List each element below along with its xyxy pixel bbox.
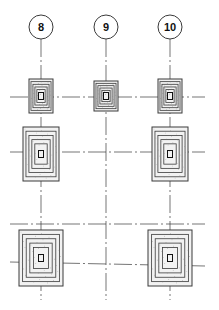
concrete-stipple [36, 88, 37, 89]
concrete-stipple [25, 247, 26, 248]
concrete-stipple [40, 174, 41, 175]
concrete-stipple [49, 169, 50, 170]
concrete-stipple [42, 136, 43, 137]
concrete-stipple [52, 131, 53, 132]
concrete-stipple [48, 261, 49, 262]
concrete-stipple [53, 280, 54, 281]
concrete-stipple [180, 274, 181, 275]
concrete-stipple [152, 269, 153, 270]
concrete-stipple [173, 142, 174, 143]
concrete-stipple [98, 94, 99, 95]
concrete-stipple [47, 134, 48, 135]
concrete-stipple [184, 173, 185, 174]
concrete-stipple [178, 237, 179, 238]
concrete-stipple [52, 155, 53, 156]
concrete-stipple [185, 265, 186, 266]
concrete-stipple [97, 87, 98, 88]
concrete-stipple [159, 156, 160, 157]
concrete-stipple [28, 144, 29, 145]
concrete-stipple [48, 82, 49, 83]
concrete-stipple [189, 256, 190, 257]
concrete-stipple [177, 100, 178, 101]
concrete-stipple [26, 253, 27, 254]
concrete-stipple [179, 268, 180, 269]
concrete-stipple [108, 105, 109, 106]
concrete-stipple [23, 241, 24, 242]
concrete-stipple [96, 98, 97, 99]
concrete-stipple [166, 139, 167, 140]
concrete-stipple [56, 265, 57, 266]
grid-bubble-label: 8 [38, 21, 44, 33]
concrete-stipple [48, 100, 49, 101]
concrete-stipple [37, 139, 38, 140]
concrete-stipple [165, 88, 166, 89]
concrete-stipple [25, 275, 26, 276]
concrete-stipple [161, 102, 162, 103]
concrete-stipple [160, 98, 161, 99]
concrete-stipple [109, 97, 110, 98]
concrete-stipple [160, 245, 161, 246]
footing-8-row-1 [29, 79, 53, 113]
concrete-stipple [178, 169, 179, 170]
concrete-stipple [115, 92, 116, 93]
concrete-stipple [43, 239, 44, 240]
concrete-stipple [96, 83, 97, 84]
concrete-stipple [50, 107, 51, 108]
concrete-stipple [25, 129, 26, 130]
concrete-stipple [180, 175, 181, 176]
concrete-stipple [44, 270, 45, 271]
concrete-stipple [151, 262, 152, 263]
concrete-stipple [154, 129, 155, 130]
concrete-stipple [113, 99, 114, 100]
concrete-stipple [39, 104, 40, 105]
concrete-stipple [35, 100, 36, 101]
concrete-stipple [44, 98, 45, 99]
concrete-stipple [32, 251, 33, 252]
concrete-stipple [104, 88, 105, 89]
concrete-stipple [162, 106, 163, 107]
concrete-stipple [60, 256, 61, 257]
concrete-stipple [176, 157, 177, 158]
concrete-stipple [160, 81, 161, 82]
concrete-stipple [154, 247, 155, 248]
concrete-stipple [114, 102, 115, 103]
concrete-stipple [38, 248, 39, 249]
concrete-stipple [167, 83, 168, 84]
concrete-stipple [44, 172, 45, 173]
concrete-stipple [172, 166, 173, 167]
footing-8-row-2 [23, 127, 59, 181]
concrete-stipple [177, 261, 178, 262]
concrete-stipple [48, 140, 49, 141]
concrete-stipple [168, 104, 169, 105]
concrete-stipple [164, 100, 165, 101]
concrete-stipple [186, 271, 187, 272]
concrete-stipple [164, 177, 165, 178]
concrete-stipple [158, 238, 159, 239]
concrete-stipple [37, 109, 38, 110]
concrete-stipple [107, 90, 108, 91]
concrete-stipple [51, 274, 52, 275]
concrete-stipple [110, 85, 111, 86]
concrete-stipple [110, 88, 111, 89]
concrete-stipple [42, 89, 43, 90]
concrete-stipple [55, 173, 56, 174]
concrete-stipple [27, 164, 28, 165]
concrete-stipple [31, 135, 32, 136]
concrete-stipple [111, 104, 112, 105]
concrete-stipple [45, 101, 46, 102]
concrete-stipple [107, 102, 108, 103]
concrete-stipple [166, 109, 167, 110]
concrete-stipple [32, 162, 33, 163]
concrete-stipple [34, 257, 35, 258]
concrete-stipple [152, 241, 153, 242]
concrete-stipple [30, 156, 31, 157]
concrete-stipple [162, 282, 163, 283]
concrete-stipple [46, 105, 47, 106]
concrete-stipple [29, 266, 30, 267]
concrete-stipple [44, 110, 45, 111]
concrete-stipple [164, 153, 165, 154]
footing-10-row-3 [148, 230, 192, 286]
concrete-stipple [54, 167, 55, 168]
concrete-stipple [57, 271, 58, 272]
concrete-stipple [179, 91, 180, 92]
